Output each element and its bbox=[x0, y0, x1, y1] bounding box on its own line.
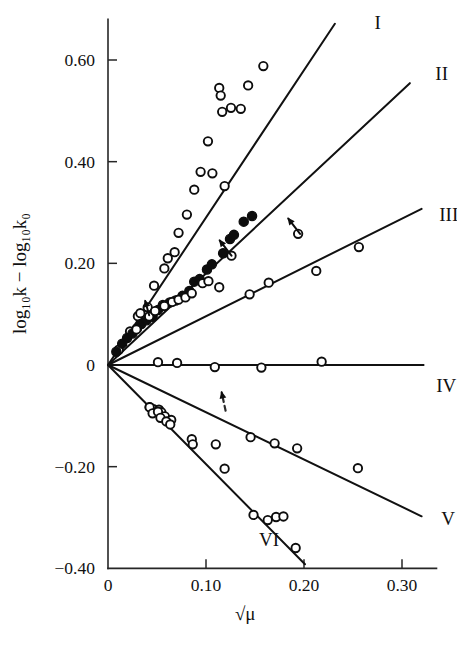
data-point bbox=[190, 185, 198, 193]
data-point bbox=[220, 465, 228, 473]
data-point bbox=[211, 363, 219, 371]
data-point bbox=[354, 464, 362, 472]
trend-line-II bbox=[108, 83, 410, 365]
arrow-dashed-lower bbox=[220, 391, 227, 411]
data-point bbox=[244, 81, 252, 89]
annotations bbox=[144, 217, 301, 410]
data-point bbox=[189, 440, 197, 448]
series-label-IV: IV bbox=[436, 375, 456, 396]
y-axis-tick-label: 0.60 bbox=[64, 50, 95, 70]
data-point bbox=[132, 325, 140, 333]
series-label-VI: VI bbox=[259, 529, 279, 550]
data-point bbox=[208, 169, 216, 177]
data-point bbox=[212, 440, 220, 448]
data-point bbox=[218, 108, 226, 116]
data-point bbox=[264, 516, 272, 524]
trend-line-V bbox=[108, 365, 422, 516]
data-point bbox=[154, 358, 162, 366]
data-point bbox=[317, 357, 325, 365]
x-axis-title: √μ bbox=[235, 603, 256, 624]
data-point bbox=[204, 277, 212, 285]
data-point bbox=[170, 248, 178, 256]
figure-container: 0.600.400.200−0.20−0.4000.100.200.30√μlo… bbox=[0, 0, 457, 657]
data-point bbox=[229, 230, 238, 239]
axes bbox=[108, 19, 437, 568]
data-point bbox=[355, 243, 363, 251]
data-point bbox=[246, 433, 254, 441]
series-label-I: I bbox=[375, 12, 381, 33]
data-point bbox=[220, 182, 228, 190]
y-axis-title: log₁₀k − log₁₀k₀ bbox=[9, 213, 30, 334]
data-point bbox=[160, 264, 168, 272]
data-point bbox=[227, 104, 235, 112]
data-point bbox=[265, 278, 273, 286]
x-axis-tick-label: 0 bbox=[104, 575, 113, 595]
trend-lines bbox=[108, 24, 424, 565]
data-point bbox=[217, 91, 225, 99]
series-label-V: V bbox=[441, 508, 455, 529]
data-point bbox=[291, 544, 299, 552]
arrow-head bbox=[220, 391, 227, 399]
data-point bbox=[150, 282, 158, 290]
data-point bbox=[151, 307, 159, 315]
data-point bbox=[166, 420, 174, 428]
data-point bbox=[279, 512, 287, 520]
y-axis-tick-label: 0.40 bbox=[64, 152, 95, 172]
data-point bbox=[136, 309, 144, 317]
data-point bbox=[183, 210, 191, 218]
series-label-III: III bbox=[439, 204, 457, 225]
x-axis-tick-label: 0.10 bbox=[191, 575, 222, 595]
data-point bbox=[245, 290, 253, 298]
x-axis-tick-label: 0.20 bbox=[289, 575, 320, 595]
data-point bbox=[196, 168, 204, 176]
data-point bbox=[259, 62, 267, 70]
data-point bbox=[270, 439, 278, 447]
data-point bbox=[237, 105, 245, 113]
y-axis-tick-label: −0.40 bbox=[55, 558, 96, 578]
series-label-II: II bbox=[435, 63, 448, 84]
data-point bbox=[112, 347, 121, 356]
y-axis-tick-label: 0 bbox=[86, 355, 95, 375]
data-point bbox=[174, 229, 182, 237]
y-axis-tick-label: 0.20 bbox=[64, 253, 95, 273]
data-point bbox=[207, 260, 216, 269]
data-point bbox=[312, 267, 320, 275]
data-point bbox=[249, 511, 257, 519]
x-axis-tick-label: 0.30 bbox=[387, 575, 418, 595]
data-points bbox=[112, 62, 363, 552]
y-axis-tick-label: −0.20 bbox=[55, 457, 96, 477]
data-point bbox=[188, 289, 196, 297]
data-point bbox=[247, 211, 256, 220]
data-point bbox=[257, 363, 265, 371]
data-point bbox=[239, 217, 248, 226]
kinetic-salt-effect-plot: 0.600.400.200−0.20−0.4000.100.200.30√μlo… bbox=[0, 0, 457, 657]
data-point bbox=[204, 137, 212, 145]
data-point bbox=[293, 444, 301, 452]
data-point bbox=[215, 283, 223, 291]
data-point bbox=[173, 359, 181, 367]
